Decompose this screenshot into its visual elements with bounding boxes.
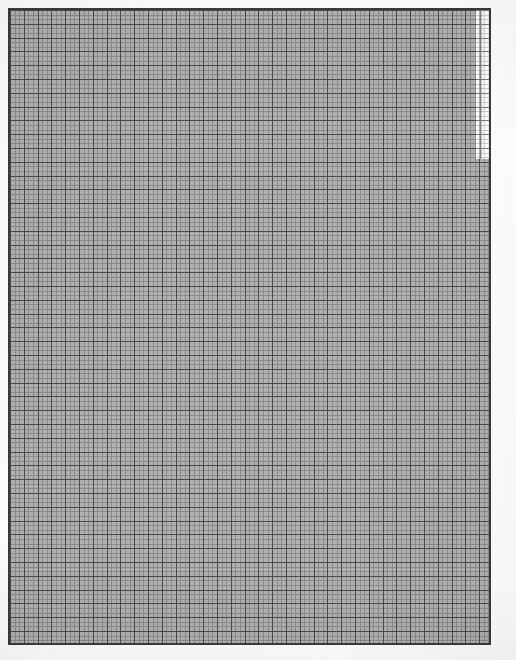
graph-paper-page	[0, 0, 516, 660]
minor-gridlines	[10, 10, 489, 643]
scan-banding	[10, 10, 489, 643]
unshaded-minor-gridlines	[476, 8, 491, 159]
major-gridlines	[10, 10, 489, 643]
unshaded-region	[476, 8, 491, 159]
unshaded-major-gridlines	[476, 8, 491, 159]
grid-sheet[interactable]	[8, 8, 491, 645]
